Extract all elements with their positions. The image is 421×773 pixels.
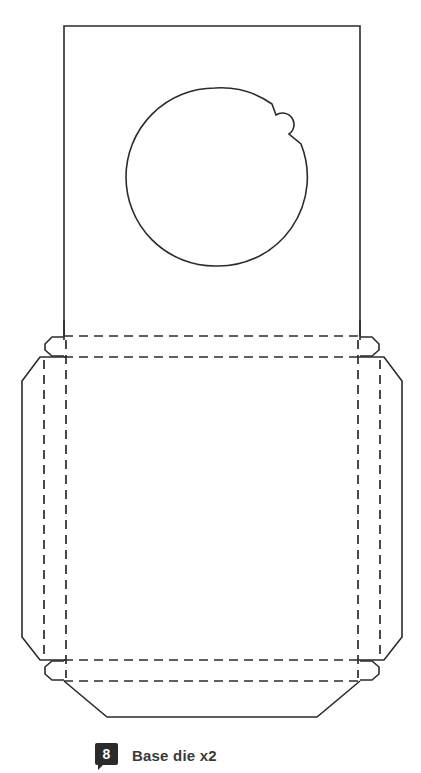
top-right-locking-tab: [360, 337, 379, 356]
bottom-left-locking-tab: [45, 661, 64, 680]
left-side-flap: [22, 357, 66, 660]
dieline-drawing: [0, 0, 421, 740]
bottom-trapezoid-flap: [64, 681, 360, 717]
circular-die-cut: [126, 88, 307, 266]
dieline-figure: 8 Base die x2: [0, 0, 421, 773]
bottom-right-locking-tab: [360, 661, 379, 680]
caption-badge-number: 8: [95, 743, 118, 765]
figure-caption: 8 Base die x2: [0, 738, 421, 773]
top-left-locking-tab: [45, 337, 64, 356]
right-side-flap: [358, 357, 402, 660]
top-panel-outline: [64, 26, 360, 336]
caption-label: Base die x2: [132, 747, 217, 764]
caption-badge: 8: [95, 743, 118, 769]
